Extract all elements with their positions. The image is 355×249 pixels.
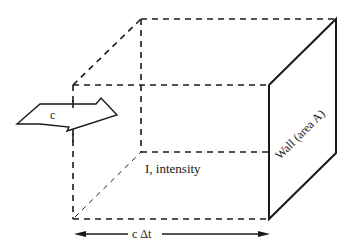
arrowhead-right-icon — [258, 231, 270, 237]
radiation-pressure-diagram: c I, intensity Wall (area A) c Δt — [0, 0, 355, 249]
bottom-left-depth-edge — [75, 152, 141, 217]
velocity-label: c — [50, 108, 55, 122]
intensity-label: I, intensity — [145, 161, 201, 176]
arrowhead-left-icon — [74, 231, 86, 237]
top-left-depth-edge — [73, 19, 141, 85]
length-arrow — [74, 231, 270, 237]
dashed-box — [73, 19, 336, 219]
velocity-arrow: c — [17, 98, 117, 142]
wall-face — [269, 19, 336, 219]
block-arrow-icon — [17, 98, 117, 131]
wall-label: Wall (area A) — [272, 107, 327, 162]
distance-label: c Δt — [132, 227, 152, 241]
wall-label-text: Wall (area A) — [272, 107, 327, 162]
